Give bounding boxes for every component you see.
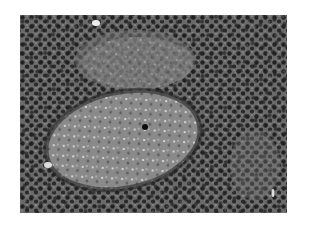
histology-micrograph [20,15,287,213]
tissue-image [20,15,287,213]
